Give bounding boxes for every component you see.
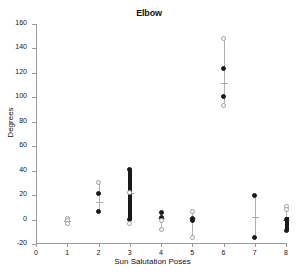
data-point-marker xyxy=(284,207,289,212)
median-marker xyxy=(96,202,103,203)
whisker-line xyxy=(99,183,100,212)
data-series-group xyxy=(192,24,193,244)
x-tick-label: 1 xyxy=(60,249,74,256)
data-point-marker xyxy=(190,235,195,240)
median-marker xyxy=(252,217,259,218)
x-tick xyxy=(36,243,37,247)
y-tick: 120 xyxy=(32,73,36,74)
data-point-marker xyxy=(96,191,101,196)
x-tick-label: 6 xyxy=(217,249,231,256)
y-tick: 160 xyxy=(32,24,36,25)
x-axis-label: Sun Salutation Poses xyxy=(30,257,275,266)
data-point-marker xyxy=(221,66,226,71)
y-tick-label: -20 xyxy=(5,239,27,246)
data-point-marker xyxy=(252,235,257,240)
y-axis-line xyxy=(36,24,37,244)
chart-title: Elbow xyxy=(0,8,298,18)
y-tick: 80 xyxy=(32,122,36,123)
data-series-group xyxy=(99,24,100,244)
y-tick-label: 120 xyxy=(5,68,27,75)
y-tick-label: 0 xyxy=(5,215,27,222)
data-point-marker xyxy=(159,227,164,232)
y-tick: 100 xyxy=(32,97,36,98)
y-tick-label: 160 xyxy=(5,19,27,26)
data-series-group xyxy=(255,24,256,244)
data-point-marker xyxy=(96,180,101,185)
data-series-group xyxy=(130,24,131,244)
plot-area: -20020406080100120140160 012345678 xyxy=(36,24,286,244)
y-tick-label: 100 xyxy=(5,92,27,99)
y-tick-label: 40 xyxy=(5,166,27,173)
chart-figure: Elbow Degrees Sun Salutation Poses -2002… xyxy=(0,0,298,276)
data-series-group xyxy=(224,24,225,244)
x-tick-label: 8 xyxy=(279,249,293,256)
data-point-marker xyxy=(96,209,101,214)
y-tick: 20 xyxy=(32,195,36,196)
median-marker xyxy=(221,83,228,84)
y-tick: 40 xyxy=(32,171,36,172)
data-point-marker xyxy=(221,36,226,41)
x-tick-label: 2 xyxy=(92,249,106,256)
x-tick-label: 0 xyxy=(29,249,43,256)
data-point-marker xyxy=(190,209,195,214)
data-point-marker xyxy=(159,210,164,215)
x-tick-label: 4 xyxy=(154,249,168,256)
data-point-marker xyxy=(127,221,132,226)
x-tick-label: 5 xyxy=(185,249,199,256)
y-tick-label: 140 xyxy=(5,43,27,50)
data-point-marker xyxy=(221,94,226,99)
data-point-marker xyxy=(284,228,289,233)
data-point-marker xyxy=(65,221,70,226)
data-point-marker xyxy=(284,217,289,222)
y-tick-label: 20 xyxy=(5,190,27,197)
data-point-marker xyxy=(159,218,164,223)
y-tick-label: 80 xyxy=(5,117,27,124)
data-series-group xyxy=(286,24,287,244)
y-tick: 140 xyxy=(32,48,36,49)
x-tick-label: 7 xyxy=(248,249,262,256)
data-series-group xyxy=(161,24,162,244)
data-point-marker xyxy=(190,218,195,223)
data-point-marker xyxy=(252,193,257,198)
y-tick: 0 xyxy=(32,220,36,221)
y-tick: 60 xyxy=(32,146,36,147)
data-series-group xyxy=(67,24,68,244)
y-tick-label: 60 xyxy=(5,141,27,148)
data-point-marker xyxy=(221,103,226,108)
x-tick-label: 3 xyxy=(123,249,137,256)
